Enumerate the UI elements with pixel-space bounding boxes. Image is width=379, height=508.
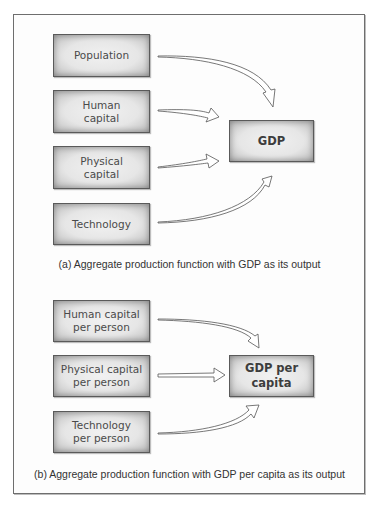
- input-box-human-capital-per-person: Human capital per person: [53, 300, 150, 342]
- caption-a: (a) Aggregate production function with G…: [0, 258, 379, 270]
- output-label: GDP: [258, 134, 285, 149]
- input-label: Population: [74, 49, 129, 62]
- output-label: GDP per capita: [242, 361, 302, 391]
- output-box-gdp-per-capita: GDP per capita: [229, 355, 314, 397]
- output-box-gdp: GDP: [229, 120, 314, 162]
- input-box-population: Population: [53, 34, 150, 77]
- input-label: Technology: [72, 218, 131, 231]
- caption-b: (b) Aggregate production function with G…: [0, 468, 379, 480]
- input-box-technology: Technology: [53, 203, 150, 245]
- input-label: Physical capital per person: [56, 363, 148, 389]
- input-box-physical-capital-per-person: Physical capital per person: [53, 355, 150, 397]
- input-box-human-capital: Human capital: [53, 90, 150, 133]
- input-label: Human capital: [77, 99, 127, 125]
- input-box-technology-per-person: Technology per person: [53, 411, 150, 453]
- input-box-physical-capital: Physical capital: [53, 146, 150, 189]
- input-label: Human capital per person: [57, 308, 147, 334]
- input-label: Physical capital: [77, 155, 127, 181]
- input-label: Technology per person: [67, 419, 137, 445]
